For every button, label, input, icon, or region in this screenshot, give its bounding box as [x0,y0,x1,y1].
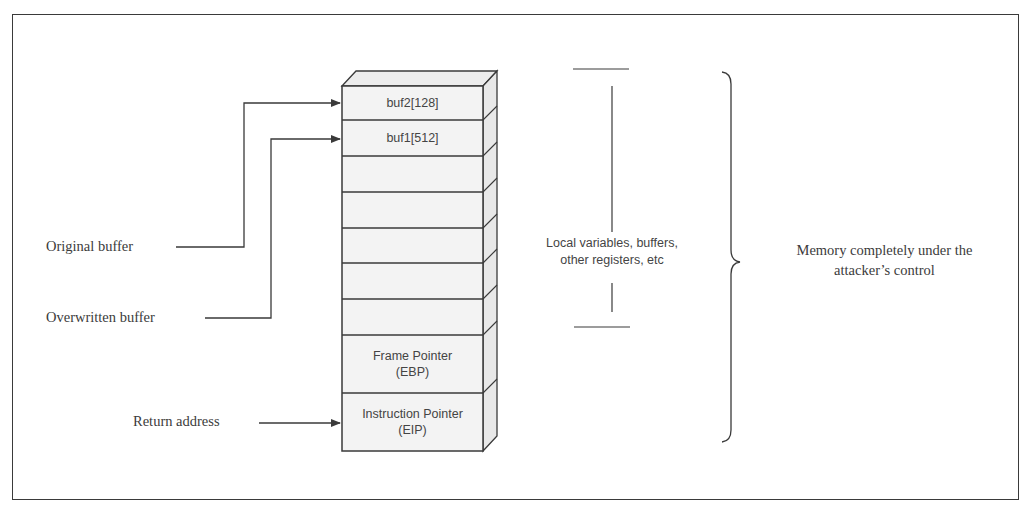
span-indicator [573,69,630,327]
label-original-buffer: Original buffer [46,238,133,255]
stack-cell-label-line1: Instruction Pointer [362,406,463,422]
stack-cell-label-line2: (EIP) [398,422,426,438]
brace-label-line1: Memory completely under the [762,240,1007,260]
stack-cell-frame-pointer: Frame Pointer (EBP) [342,335,483,393]
stack-cell-label-line2: (EBP) [396,364,429,380]
original-buffer-arrow [176,103,340,247]
span-label-line1: Local variables, buffers, [522,235,702,252]
stack-cell-label: buf2[128] [386,95,438,111]
stack-cell-buf2: buf2[128] [342,86,483,120]
span-label: Local variables, buffers, other register… [522,235,702,269]
brace-label-line2: attacker’s control [762,260,1007,280]
stack-cell-buf1: buf1[512] [342,120,483,156]
stack-cell-label-line1: Frame Pointer [373,348,452,364]
stack-cell-label: buf1[512] [386,130,438,146]
label-return-address: Return address [133,413,220,430]
stack-cell-instruction-pointer: Instruction Pointer (EIP) [342,393,483,451]
brace-label: Memory completely under the attacker’s c… [762,240,1007,280]
curly-brace [722,72,740,442]
span-label-line2: other registers, etc [522,252,702,269]
label-overwritten-buffer: Overwritten buffer [46,309,155,326]
overwritten-buffer-arrow [205,139,340,318]
